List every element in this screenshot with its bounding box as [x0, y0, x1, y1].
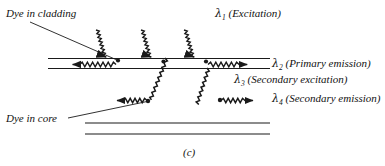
lambda3-description: (Secondary excitation)	[245, 73, 348, 85]
lambda3-secondary-excitation-right	[196, 68, 209, 105]
cladding-dye-interaction-points	[116, 58, 208, 63]
label-lambda4-secondary-emission: λ4 (Secondary emission)	[272, 93, 381, 107]
lambda2-emission-right	[208, 62, 247, 67]
lambda1-description: (Excitation)	[226, 7, 281, 19]
label-dye-in-core: Dye in core	[6, 113, 57, 124]
lower-layer-boundaries	[85, 123, 270, 134]
lambda2-symbol: λ	[272, 57, 279, 70]
lambda4-emission-right	[221, 98, 253, 102]
lambda3-symbol: λ	[234, 73, 241, 86]
lambda4-description: (Secondary emission)	[283, 92, 381, 104]
lambda1-excitation-rays	[96, 30, 194, 57]
figure-container: Dye in cladding Dye in core λ1 (Excitati…	[0, 0, 385, 166]
core-dye-interaction-points	[146, 98, 222, 103]
lambda3-secondary-excitation-left	[150, 58, 168, 100]
label-dye-in-cladding: Dye in cladding	[6, 8, 76, 19]
dye-in-cladding-leader-line	[30, 22, 117, 60]
label-lambda2-primary-emission: λ2 (Primary emission)	[272, 58, 371, 72]
label-lambda3-secondary-excitation: λ3 (Secondary excitation)	[234, 74, 347, 88]
lambda4-symbol: λ	[272, 92, 279, 105]
dye-in-core-leader-line	[68, 102, 147, 119]
lambda2-description: (Primary emission)	[283, 57, 371, 69]
figure-caption: (c)	[183, 147, 195, 158]
label-lambda1-excitation: λ1 (Excitation)	[215, 8, 281, 22]
lambda2-emission-left	[73, 62, 116, 67]
lambda1-symbol: λ	[215, 7, 222, 20]
